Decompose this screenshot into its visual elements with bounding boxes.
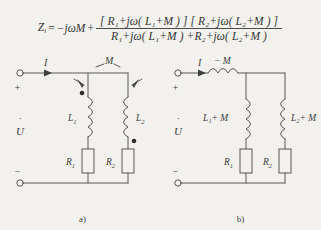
formula-lhs: Zi bbox=[38, 21, 46, 35]
terminal-positive-a bbox=[17, 70, 23, 76]
series-inductor-neg-m-b bbox=[208, 69, 238, 74]
inductor-l1-label-a: L1 bbox=[67, 113, 77, 125]
formula-equals: = bbox=[48, 22, 55, 34]
voltage-phasor-dot-b: ˙ bbox=[176, 116, 179, 127]
circuit-b: I ˙ − M + − U ˙ L₁+ M L₂+ M R1 R2 b) bbox=[160, 55, 321, 230]
formula-plus: + bbox=[87, 22, 94, 34]
polarity-plus-a: + bbox=[14, 82, 21, 93]
circuit-a: I ˙ M + − U ˙ L1 L2 R1 R2 a) bbox=[0, 55, 165, 230]
formula-lead-term: −jωM bbox=[57, 22, 86, 34]
formula-denominator: R₁+jω( L₁+M ) +R₂+jω( L₂+M ) bbox=[107, 29, 271, 42]
resistor-r2-a bbox=[122, 149, 134, 173]
voltage-phasor-dot-a: ˙ bbox=[18, 116, 21, 127]
resistor-r2-label-a: R2 bbox=[105, 157, 116, 169]
resistor-r1-a bbox=[82, 149, 94, 173]
coupling-dot-l1-a bbox=[80, 91, 85, 96]
current-arrowhead-a bbox=[44, 70, 52, 77]
branch-left-label-b: L₁+ M bbox=[202, 113, 229, 123]
inductor-l1-plus-m-b bbox=[246, 99, 251, 139]
current-arrowhead-b bbox=[198, 70, 206, 77]
resistor-r2-label-b: R2 bbox=[262, 157, 273, 169]
mutual-label-a: M bbox=[104, 55, 114, 66]
formula-lhs-subscript: i bbox=[44, 27, 46, 35]
circuit-a-svg: I ˙ M + − U ˙ L1 L2 R1 R2 bbox=[0, 55, 165, 205]
formula-fraction: [ R₁+jω( L₁+M ) ] [ R₂+jω( L₂+M ) ] R₁+j… bbox=[96, 15, 282, 42]
inductor-l2-label-a: L2 bbox=[135, 113, 145, 125]
branch-right-label-b: L₂+ M bbox=[290, 113, 317, 123]
current-phasor-dot-b: ˙ bbox=[200, 55, 203, 62]
polarity-minus-b: − bbox=[172, 166, 179, 177]
resistor-r1-b bbox=[240, 149, 252, 173]
resistor-r1-label-b: R1 bbox=[223, 157, 233, 169]
terminal-positive-b bbox=[175, 70, 181, 76]
series-inductor-label-b: − M bbox=[214, 56, 232, 66]
impedance-formula: Zi = −jωM + [ R₁+jω( L₁+M ) ] [ R₂+jω( L… bbox=[0, 2, 321, 54]
circuit-b-svg: I ˙ − M + − U ˙ L₁+ M L₂+ M R1 R2 bbox=[160, 55, 321, 205]
caption-a: a) bbox=[0, 214, 165, 224]
inductor-l1-a bbox=[88, 97, 93, 137]
inductor-l2-plus-m-b bbox=[281, 99, 286, 139]
figure-root: Zi = −jωM + [ R₁+jω( L₁+M ) ] [ R₂+jω( L… bbox=[0, 0, 321, 230]
mutual-arrowhead-right-a bbox=[132, 79, 139, 88]
current-phasor-dot-a: ˙ bbox=[46, 55, 49, 62]
polarity-minus-a: − bbox=[14, 166, 21, 177]
inductor-l2-a bbox=[124, 97, 129, 137]
resistor-r1-label-a: R1 bbox=[65, 157, 75, 169]
polarity-plus-b: + bbox=[172, 82, 179, 93]
mutual-leader-left-a bbox=[96, 64, 104, 67]
coupling-dot-l2-a bbox=[132, 139, 137, 144]
terminal-negative-a bbox=[17, 180, 23, 186]
caption-b: b) bbox=[160, 214, 321, 224]
formula-numerator: [ R₁+jω( L₁+M ) ] [ R₂+jω( L₂+M ) ] bbox=[96, 15, 282, 28]
mutual-leader-right-a bbox=[114, 64, 120, 67]
mutual-arrowhead-left-a bbox=[77, 79, 84, 88]
terminal-negative-b bbox=[175, 180, 181, 186]
resistor-r2-b bbox=[279, 149, 291, 173]
